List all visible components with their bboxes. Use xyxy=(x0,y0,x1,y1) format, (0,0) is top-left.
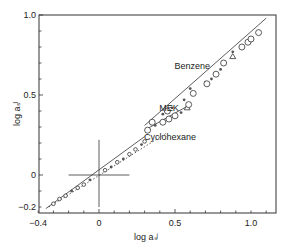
point-cyclohexane xyxy=(82,183,86,187)
point-benzene xyxy=(256,30,262,36)
y-tick-label: −0.2 xyxy=(18,202,36,212)
point-benzene xyxy=(248,36,254,42)
x-axis-label: log aₛʲ xyxy=(134,232,158,242)
point-benzene xyxy=(219,68,222,71)
point-benzene xyxy=(210,78,213,81)
data-points xyxy=(52,30,262,206)
point-benzene xyxy=(213,71,219,77)
x-tick-label: 0.5 xyxy=(169,218,182,228)
point-mek xyxy=(160,119,166,125)
point-benzene xyxy=(161,113,164,116)
point-benzene xyxy=(190,90,196,96)
point-cyclohexane xyxy=(88,178,91,181)
axis-ticks xyxy=(38,15,266,213)
point-mek xyxy=(180,111,183,114)
x-tick-label: −0.4 xyxy=(29,218,47,228)
y-tick-label: 1.0 xyxy=(23,10,36,20)
fit-lines xyxy=(46,18,266,208)
point-benzene xyxy=(230,54,236,59)
point-cyclohexane xyxy=(52,202,56,206)
point-mek xyxy=(186,102,192,108)
point-cyclohexane xyxy=(128,152,132,156)
x-tick-label: 1.0 xyxy=(245,218,258,228)
point-benzene xyxy=(183,98,186,101)
point-benzene xyxy=(239,44,245,50)
y-tick-label: 0.5 xyxy=(23,90,36,100)
point-benzene xyxy=(204,81,210,87)
point-cyclohexane xyxy=(140,143,143,146)
point-mek xyxy=(166,116,172,122)
point-cyclohexane xyxy=(122,158,125,161)
curve-labels: BenzeneMEKCyclohexane xyxy=(144,61,210,141)
point-benzene xyxy=(189,87,192,90)
point-cyclohexane xyxy=(76,186,80,190)
point-benzene xyxy=(231,50,234,53)
point-cyclohexane xyxy=(64,194,68,198)
label-benzene: Benzene xyxy=(174,61,210,71)
point-cyclohexane xyxy=(110,166,113,169)
reference-cross xyxy=(69,140,130,207)
point-cyclohexane xyxy=(115,160,119,164)
y-axis-label: log aₛᴵ xyxy=(12,101,22,126)
chart-figure: −0.400.51.0−0.200.51.0 BenzeneMEKCyclohe… xyxy=(0,0,293,247)
point-cyclohexane xyxy=(58,197,62,201)
point-benzene xyxy=(221,60,227,66)
point-mek xyxy=(154,124,157,127)
point-cyclohexane xyxy=(103,168,107,172)
label-cyclohexane: Cyclohexane xyxy=(144,132,196,142)
label-mek: MEK xyxy=(159,103,179,113)
point-cyclohexane xyxy=(134,148,138,152)
point-cyclohexane xyxy=(70,190,73,193)
point-benzene xyxy=(149,119,155,125)
scatter-plot: −0.400.51.0−0.200.51.0 BenzeneMEKCyclohe… xyxy=(0,0,293,247)
x-tick-label: 0 xyxy=(96,218,101,228)
y-tick-label: 0 xyxy=(31,170,36,180)
point-mek xyxy=(172,113,178,119)
axis-tick-labels: −0.400.51.0−0.200.51.0 xyxy=(18,10,257,228)
